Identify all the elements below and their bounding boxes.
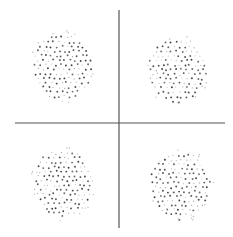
data-point: [176, 96, 178, 98]
data-point: [193, 216, 194, 217]
data-point: [62, 82, 63, 83]
data-point: [79, 86, 80, 87]
data-point: [45, 54, 47, 56]
data-point: [182, 51, 184, 53]
data-point: [60, 56, 62, 58]
data-point: [158, 163, 160, 165]
data-point: [193, 201, 194, 202]
cluster-top-left: [32, 30, 94, 103]
data-point: [195, 96, 196, 97]
data-point: [178, 65, 179, 66]
data-point: [195, 55, 196, 56]
data-point: [85, 69, 87, 71]
data-point: [38, 68, 39, 69]
data-point: [161, 68, 163, 70]
data-point: [192, 219, 193, 220]
data-point: [189, 172, 191, 174]
data-point: [56, 74, 57, 75]
data-point: [168, 56, 169, 57]
data-point: [150, 68, 152, 70]
data-point: [167, 74, 169, 76]
data-point: [43, 69, 44, 70]
data-point: [60, 171, 62, 173]
data-point: [68, 51, 70, 53]
data-point: [171, 205, 173, 207]
data-point: [56, 83, 58, 85]
data-point: [68, 167, 70, 169]
data-point: [56, 91, 58, 93]
data-point: [191, 59, 193, 61]
data-point: [167, 192, 169, 194]
data-point: [170, 177, 172, 179]
data-point: [163, 64, 165, 66]
data-point: [55, 162, 57, 164]
data-point: [197, 78, 199, 80]
data-point: [42, 156, 44, 158]
data-point: [68, 176, 70, 178]
data-point: [42, 59, 44, 61]
data-point: [85, 50, 87, 52]
data-point: [152, 65, 154, 67]
data-point: [85, 207, 86, 208]
data-point: [38, 165, 40, 167]
data-point: [178, 181, 180, 183]
data-point: [197, 168, 198, 169]
data-point: [74, 166, 76, 168]
data-point: [185, 213, 186, 214]
data-point: [165, 212, 167, 214]
data-point: [196, 87, 198, 89]
data-point: [88, 171, 89, 172]
data-point: [201, 79, 203, 81]
data-point: [154, 168, 156, 170]
data-point: [90, 176, 91, 177]
data-point: [156, 70, 157, 71]
data-point: [198, 173, 200, 175]
data-point: [197, 206, 198, 207]
data-point: [193, 172, 195, 174]
data-point: [177, 149, 178, 150]
data-point: [184, 173, 186, 175]
data-point: [58, 41, 59, 42]
data-point: [149, 60, 151, 62]
data-point: [154, 196, 156, 198]
data-point: [64, 42, 65, 43]
data-point: [189, 46, 190, 47]
data-point: [54, 96, 56, 98]
data-point: [69, 202, 70, 203]
data-point: [168, 156, 169, 157]
data-point: [55, 198, 57, 200]
data-point: [192, 178, 194, 180]
data-point: [175, 204, 177, 206]
data-point: [175, 212, 177, 214]
data-point: [63, 68, 64, 69]
data-point: [51, 162, 53, 164]
data-point: [158, 56, 159, 57]
data-point: [184, 56, 186, 58]
data-point: [72, 56, 73, 57]
data-point: [178, 199, 180, 201]
data-point: [72, 180, 74, 182]
data-point: [173, 191, 175, 193]
data-point: [47, 67, 49, 69]
data-point: [39, 46, 41, 48]
data-point: [40, 198, 42, 200]
data-point: [64, 51, 66, 53]
data-point: [180, 159, 181, 160]
data-point: [157, 73, 158, 74]
data-point: [158, 83, 159, 84]
data-point: [63, 166, 65, 168]
data-point: [171, 86, 173, 88]
data-point: [62, 45, 64, 47]
data-point: [51, 82, 52, 83]
data-point: [46, 90, 48, 92]
data-point: [150, 78, 151, 79]
data-point: [190, 195, 192, 197]
data-point: [179, 47, 181, 49]
data-point: [69, 147, 70, 148]
data-point: [158, 173, 159, 174]
data-point: [147, 65, 148, 66]
cluster-bottom-left: [31, 147, 94, 221]
data-point: [82, 162, 84, 164]
data-point: [56, 181, 58, 183]
data-point: [158, 92, 160, 94]
